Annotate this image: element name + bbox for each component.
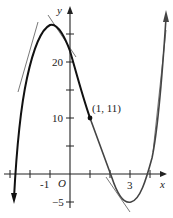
x-axis-label: x — [159, 178, 165, 190]
y-axis-label: y — [56, 4, 62, 16]
x-tick-label-3: 3 — [127, 179, 133, 191]
x-tick-label-neg1: -1 — [40, 178, 49, 190]
x-axis-arrow-icon — [160, 171, 167, 177]
y-axis — [66, 6, 74, 208]
point-label: (1, 11) — [92, 102, 121, 115]
function-graph: y x O 20 10 −5 -1 3 (1, 11) — [0, 0, 173, 218]
origin-label: O — [58, 177, 66, 189]
y-tick-label-10: 10 — [52, 112, 64, 124]
x-axis — [4, 170, 167, 178]
marked-point — [88, 116, 93, 121]
y-tick-label-20: 20 — [52, 56, 64, 68]
curve-up-arrow-icon — [163, 10, 169, 22]
y-axis-arrow-icon — [67, 6, 73, 14]
curve-down-arrow-icon — [11, 193, 17, 204]
y-tick-label-neg5: −5 — [52, 196, 64, 208]
